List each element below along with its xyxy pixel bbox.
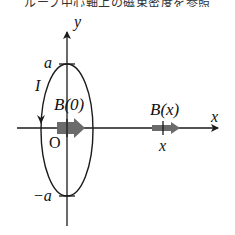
- x-position-label: x: [159, 138, 166, 154]
- origin-label: O: [49, 135, 61, 151]
- field-arrow-bx: [152, 122, 180, 134]
- y-axis-label: y: [74, 14, 81, 30]
- x-axis-label: x: [211, 109, 218, 125]
- loop-top-label: a: [44, 55, 52, 71]
- field-arrow-b0: [57, 118, 85, 138]
- loop-bottom-label: −a: [33, 188, 52, 204]
- current-label: I: [35, 78, 40, 94]
- field-label-b0: B(0): [54, 96, 84, 113]
- field-label-bx: B(x): [150, 101, 179, 118]
